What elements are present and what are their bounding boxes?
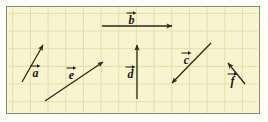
vector-label-c: c	[181, 51, 192, 66]
vector-label-a: a	[30, 64, 41, 79]
vector-label-f: f	[227, 72, 238, 87]
vector-arrow-accent-icon	[126, 11, 137, 15]
vector-arrow-accent-icon	[125, 65, 136, 69]
vector-arrow-accent-icon	[30, 64, 41, 68]
vector-label-d: d	[125, 65, 136, 80]
vector-arrow-accent-icon	[66, 66, 77, 70]
vector-label-letter: d	[125, 68, 136, 80]
vector-diagram-figure: abcdef	[0, 0, 268, 122]
vector-label-b: b	[126, 11, 137, 26]
vector-label-letter: b	[126, 14, 137, 26]
vector-label-letter: c	[181, 54, 192, 66]
vector-label-letter: a	[30, 67, 41, 79]
vector-arrow-accent-icon	[181, 51, 192, 55]
vector-label-letter: f	[227, 75, 238, 87]
vector-label-e: e	[66, 66, 77, 81]
vector-arrow-accent-icon	[227, 72, 238, 76]
vector-label-letter: e	[66, 69, 77, 81]
